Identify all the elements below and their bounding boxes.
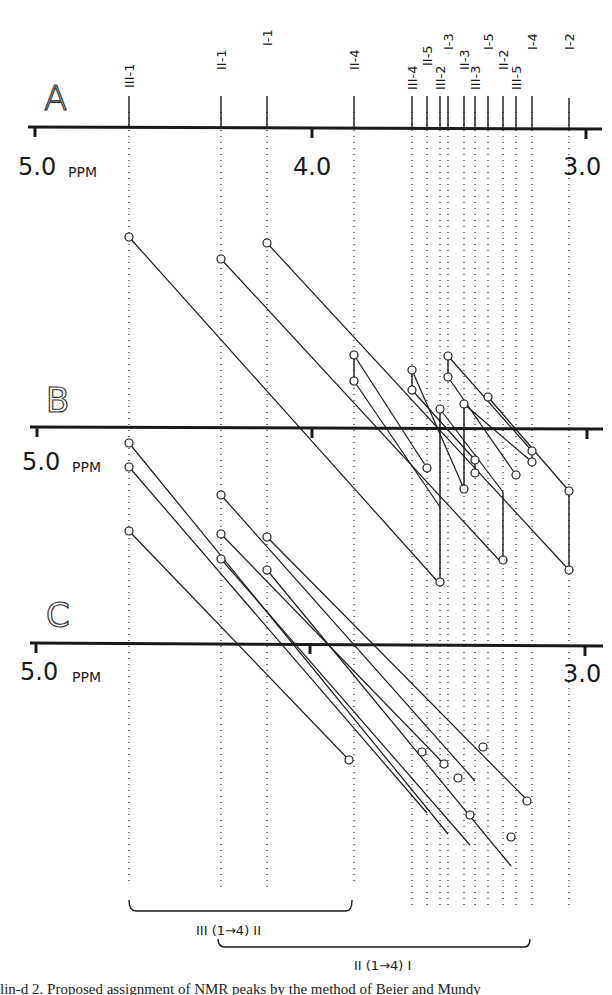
unit-label-c: PPM (72, 669, 101, 685)
peak-label: III-4 (405, 66, 420, 90)
panel-c-label: C (46, 595, 70, 635)
peak-label: III-5 (509, 66, 524, 90)
peak-label: III-1 (122, 64, 137, 88)
correlation-lines-c (129, 443, 528, 866)
peak-markers-c (125, 439, 531, 841)
unit-label-b: PPM (72, 459, 101, 475)
peak-labels: III-1 II-1 I-1 II-4 III-4 II-5 III-2 I-3… (122, 29, 577, 90)
bracket-ii-i (218, 939, 530, 947)
tick-label-5-c: 5.0 (20, 658, 58, 686)
tick-label-3: 3.0 (563, 153, 601, 181)
tick-label-3-c: 3.0 (563, 660, 601, 688)
tick-label-5: 5.0 (18, 153, 56, 181)
figure-caption: lin-d 2. Proposed assignment of NMR peak… (0, 981, 612, 995)
axis-c (30, 643, 603, 646)
peak-label: I-1 (260, 29, 275, 46)
peak-label: II-4 (347, 49, 362, 70)
peak-label: III-2 (433, 66, 448, 90)
vertical-connectors-b (354, 355, 569, 582)
axis-b (30, 427, 603, 429)
unit-label: PPM (68, 164, 97, 180)
bracket-iii-ii (129, 900, 352, 911)
panel-a-label: A (44, 78, 67, 118)
peak-markers-b (125, 233, 573, 586)
peak-label: II-5 (420, 45, 435, 66)
peak-label: III-3 (468, 66, 483, 90)
bracket-iii-ii-label: III (1→4) II (196, 923, 261, 938)
peak-label: I-3 (441, 33, 456, 50)
tick-label-4: 4.0 (293, 153, 331, 181)
tick-label-5-b: 5.0 (22, 448, 60, 476)
bracket-ii-i-label: II (1→4) I (354, 958, 411, 973)
panel-b: B 5.0 PPM (22, 233, 603, 586)
peak-label: I-2 (562, 33, 577, 50)
panel-b-label: B (46, 380, 69, 420)
peak-label: I-4 (525, 33, 540, 50)
peak-label: I-5 (481, 33, 496, 50)
panel-a: A III-1 (18, 29, 602, 181)
peak-stick-lines (129, 96, 569, 129)
peak-label: II-1 (214, 49, 229, 70)
